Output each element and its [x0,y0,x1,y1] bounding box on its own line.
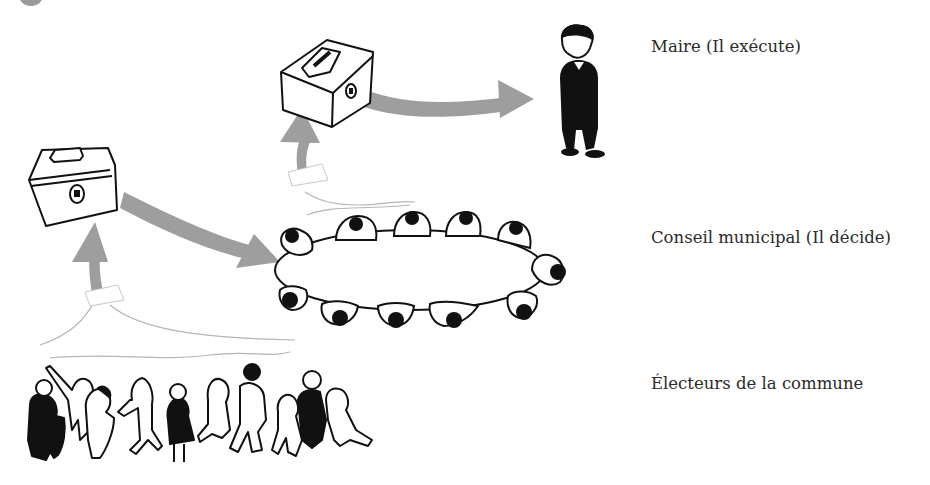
ballot-box-icon [29,148,117,226]
voters-crowd-icon [28,364,372,462]
level-label-maire: Maire (Il exécute) [651,37,801,56]
level-label-conseil: Conseil municipal (Il décide) [651,228,891,247]
arrow-right-icon [364,80,534,118]
arrow-up-icon [72,222,124,306]
mayor-figure-icon [560,24,605,158]
ballot-box-icon [281,40,373,127]
arrow-right-icon [120,192,280,268]
election-diagram: Maire (Il exécute) Conseil municipal (Il… [0,0,930,485]
level-label-electeurs: Électeurs de la commune [651,374,863,393]
council-table-icon [275,211,566,328]
